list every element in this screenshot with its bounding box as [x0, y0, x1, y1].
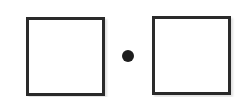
left-box[interactable] [26, 17, 105, 96]
multiply-dot-icon [122, 50, 134, 62]
right-box[interactable] [152, 16, 231, 95]
